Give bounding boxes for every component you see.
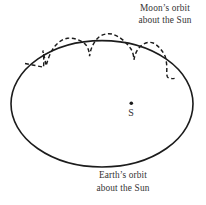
earth-orbit-caption-line2: about the Sun bbox=[82, 182, 164, 196]
sun-point-label: S bbox=[124, 107, 138, 119]
earth-orbit-ellipse bbox=[11, 41, 193, 167]
earth-orbit-caption: Earth’s orbit about the Sun bbox=[82, 169, 164, 197]
moon-orbit-caption-line2: about the Sun bbox=[129, 15, 201, 27]
moon-orbit-caption-line1: Moon’s orbit bbox=[129, 3, 201, 15]
moon-orbit-caption: Moon’s orbit about the Sun bbox=[129, 3, 201, 27]
sun-dot bbox=[130, 101, 134, 105]
earth-orbit-caption-line1: Earth’s orbit bbox=[82, 169, 164, 183]
orbit-diagram: Moon’s orbit about the Sun Earth’s orbit… bbox=[0, 0, 206, 205]
